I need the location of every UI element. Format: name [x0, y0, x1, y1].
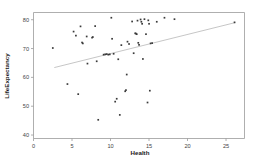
x-tick-label: 25: [223, 143, 229, 149]
data-point: [137, 20, 139, 22]
data-point: [119, 114, 121, 116]
data-point: [149, 90, 151, 92]
x-axis-tick-labels: 0510152025: [32, 143, 229, 149]
x-tick-label: 0: [32, 143, 35, 149]
x-tick-label: 15: [146, 143, 152, 149]
data-point: [138, 44, 140, 46]
data-point: [234, 22, 236, 24]
data-point: [150, 43, 152, 45]
data-point: [94, 25, 96, 27]
data-point: [109, 54, 111, 56]
data-point: [131, 21, 133, 23]
data-point: [107, 54, 109, 56]
data-point: [148, 23, 150, 25]
data-point: [147, 102, 149, 104]
data-points-group: [52, 17, 235, 121]
y-axis-title: LifeExpectancy: [3, 53, 10, 99]
data-point: [140, 19, 142, 21]
data-point: [117, 58, 119, 60]
data-point: [67, 83, 69, 85]
data-point: [156, 21, 158, 23]
data-point: [133, 52, 135, 54]
plot-frame: [34, 13, 245, 139]
scatter-plot-figure: 4050607080 0510152025 Health LifeExpecta…: [0, 0, 257, 163]
data-point: [75, 35, 77, 37]
data-point: [80, 26, 82, 28]
data-point: [141, 23, 143, 25]
data-point: [97, 119, 99, 121]
plot-canvas: 4050607080 0510152025 Health LifeExpecta…: [0, 0, 257, 163]
y-tick-label: 80: [23, 17, 29, 23]
y-tick-label: 60: [23, 74, 29, 80]
data-point: [151, 42, 153, 44]
data-point: [142, 58, 144, 60]
y-tick-label: 50: [23, 103, 29, 109]
x-tick-label: 20: [184, 143, 190, 149]
data-point: [164, 17, 166, 19]
y-tick-label: 70: [23, 46, 29, 52]
data-point: [86, 36, 88, 38]
y-tick-label: 40: [23, 132, 29, 138]
data-point: [126, 74, 128, 76]
data-point: [120, 44, 122, 46]
data-point: [96, 60, 98, 62]
data-point: [73, 31, 75, 33]
data-point: [87, 63, 89, 65]
data-point: [52, 47, 54, 49]
data-point: [128, 43, 130, 45]
data-point: [92, 36, 94, 38]
regression-fit-line: [54, 23, 235, 68]
data-point: [106, 53, 108, 55]
x-tick-label: 5: [70, 143, 73, 149]
data-point: [103, 54, 105, 56]
data-point: [116, 98, 118, 100]
data-point: [136, 33, 138, 35]
data-point: [111, 38, 113, 40]
data-point: [113, 53, 115, 55]
data-point: [137, 42, 139, 44]
data-point: [145, 33, 147, 35]
x-tick-label: 10: [107, 143, 113, 149]
data-point: [110, 17, 112, 19]
data-point: [77, 93, 79, 95]
data-point: [82, 43, 84, 45]
data-point: [147, 19, 149, 21]
data-point: [174, 18, 176, 20]
data-point: [144, 18, 146, 20]
data-point: [127, 41, 129, 43]
data-point: [125, 89, 127, 91]
data-point: [104, 54, 106, 56]
data-point: [114, 101, 116, 103]
x-axis-title: Health: [131, 149, 150, 156]
y-axis-tick-labels: 4050607080: [23, 17, 29, 138]
data-point: [141, 21, 143, 23]
